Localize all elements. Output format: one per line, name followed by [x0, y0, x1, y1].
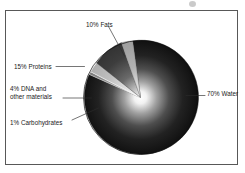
slice-label-dna-line1: 4% DNA and [10, 85, 46, 92]
slice-label-proteins: 15% Proteins [14, 63, 52, 71]
slice-label-dna-line2: other materials [10, 93, 52, 100]
slice-label-fats: 10% Fats [86, 21, 113, 29]
slice-label-carbohydrates: 1% Carbohydrates [10, 119, 62, 127]
slice-label-water: 70% Water [207, 90, 238, 98]
slice-label-dna: 4% DNA and other materials [10, 85, 72, 101]
pie-chart-figure: 10% Fats 15% Proteins 4% DNA and other m… [0, 0, 245, 173]
